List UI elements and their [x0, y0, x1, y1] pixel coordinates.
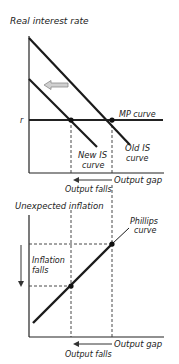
output-falls-label: Output falls: [65, 350, 112, 359]
x-axis-label-output-gap: Output gap: [114, 339, 162, 349]
inflation-falls-label-2: falls: [32, 266, 48, 275]
phillips-curve-extension: [112, 228, 129, 244]
phillips-panel: Unexpected inflation Phillips curve Infl…: [15, 201, 164, 359]
is-mp-panel: Real interest rate r MP curve Old IS cur…: [10, 16, 164, 194]
leftward-shift-arrow-icon: [44, 81, 68, 90]
new-inflation-point: [68, 283, 73, 288]
r-label: r: [20, 116, 24, 125]
y-axis-label-unexpected-inflation: Unexpected inflation: [15, 201, 104, 211]
old-equilibrium-point: [109, 117, 114, 122]
old-is-label-curve: curve: [126, 154, 148, 163]
new-is-label-curve: curve: [82, 161, 104, 170]
is-mp-phillips-diagram: Real interest rate r MP curve Old IS cur…: [0, 0, 179, 364]
new-equilibrium-point: [68, 117, 73, 122]
phillips-label-curve: curve: [134, 226, 156, 235]
x-axis-label-output-gap: Output gap: [114, 175, 162, 185]
phillips-label: Phillips: [130, 217, 158, 226]
new-is-label: New IS: [78, 150, 108, 160]
mp-curve-label: MP curve: [119, 110, 156, 119]
y-axis-label-real-interest-rate: Real interest rate: [10, 16, 89, 26]
new-is-curve: [29, 79, 97, 147]
old-is-label: Old IS: [125, 143, 151, 153]
inflation-falls-label: Inflation: [32, 256, 65, 265]
old-inflation-point: [109, 241, 114, 246]
output-falls-label: Output falls: [65, 185, 112, 194]
